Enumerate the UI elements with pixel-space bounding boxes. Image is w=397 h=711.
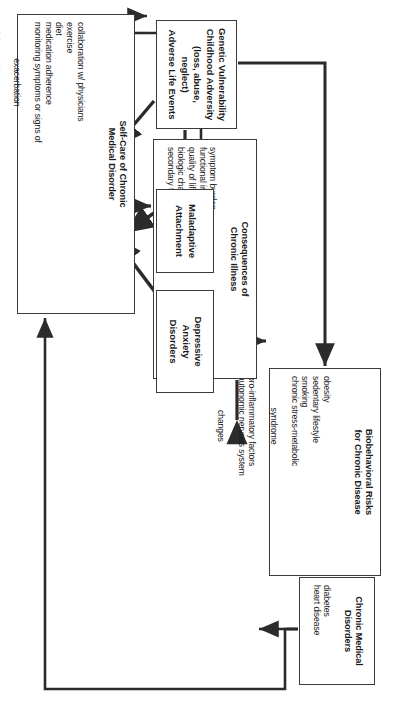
node-genetic-vulnerability[interactable]: Genetic Vulnerability Childhood Adversit… [156,20,237,129]
node-items: obesity sedentary lifestyle smoking chro… [204,376,342,476]
node-self-care-of-chronic-medical-disorder[interactable]: Self-Care of Chronic Medical Disorder co… [17,14,135,314]
node-depressive-anxiety-disorders[interactable]: Depressive Anxiety Disorders [156,290,214,393]
node-items-part-3: pro-inflammatory factors autonomic nervo… [236,376,257,476]
node-title: Self-Care of Chronic Medical Disorder [105,121,128,208]
node-items: collaboration w/ physicians exercise die… [0,22,96,143]
node-title: Biobehavioral Risks for Chronic Disease [351,429,374,515]
node-items-part-3: quitting smoking [0,22,1,143]
figure-canvas: Chronic Medical Disorders diabetes heart… [0,0,397,711]
node-title: Maladaptive Attachment [173,204,198,258]
node-items: diabetes heart disease [311,585,332,635]
node-title: Chronic Medical Disorders [341,596,364,665]
node-items-part-1: collaboration w/ physicians exercise die… [33,22,86,143]
node-items-part-2: syndrome [268,376,279,476]
node-items-part-2: exacerbation [11,22,22,143]
node-items-part-1: obesity sedentary lifestyle smoking chro… [289,376,331,476]
node-title: Depressive Anxiety Disorders [167,316,205,366]
diagram-canvas: Chronic Medical Disorders diabetes heart… [0,0,397,711]
node-chronic-medical-disorders[interactable]: Chronic Medical Disorders diabetes heart… [299,577,375,685]
node-biobehavioral-risks[interactable]: Biobehavioral Risks for Chronic Disease … [269,368,381,576]
node-maladaptive-attachment[interactable]: Maladaptive Attachment [156,189,214,273]
node-title: Genetic Vulnerability Childhood Adversit… [166,28,229,121]
node-items-part-4: changes [215,376,226,476]
node-title: Consequences of Chronic Illness [227,221,250,296]
